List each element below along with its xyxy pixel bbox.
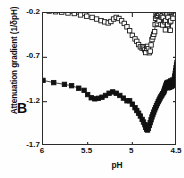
data-point bbox=[85, 14, 89, 18]
data-point bbox=[149, 43, 153, 47]
data-point bbox=[90, 15, 94, 19]
series-open-squares bbox=[43, 13, 176, 55]
data-point bbox=[127, 29, 131, 33]
x-tick-label: 5.5 bbox=[81, 146, 92, 155]
chart-svg bbox=[43, 13, 176, 145]
x-axis-title: pH bbox=[0, 160, 184, 170]
data-point bbox=[78, 13, 82, 17]
data-point bbox=[148, 49, 152, 53]
y-tick-label: -0.7 bbox=[14, 52, 40, 60]
data-point bbox=[60, 13, 64, 14]
data-point bbox=[77, 86, 81, 90]
data-point bbox=[43, 78, 45, 82]
chart-figure: Attenuation gradient (1/δpH) -0.2-0.7-1.… bbox=[0, 0, 184, 178]
series-filled-squares bbox=[43, 60, 176, 132]
data-point bbox=[52, 80, 56, 84]
panel-label: B bbox=[17, 100, 27, 116]
x-axis-tick-labels: 65.554.5 bbox=[0, 146, 184, 160]
data-point bbox=[66, 13, 70, 15]
data-point bbox=[82, 88, 86, 92]
data-point bbox=[62, 82, 66, 86]
y-tick-label: -0.2 bbox=[14, 8, 40, 16]
x-tick-label: 5 bbox=[129, 146, 133, 155]
x-axis-title-text: pH bbox=[111, 160, 122, 170]
data-point bbox=[53, 13, 57, 14]
data-point bbox=[152, 29, 156, 33]
data-point bbox=[163, 28, 167, 32]
data-point bbox=[72, 13, 76, 16]
data-point bbox=[69, 84, 73, 88]
data-point bbox=[171, 16, 175, 20]
data-point bbox=[168, 28, 172, 32]
data-point bbox=[175, 60, 176, 64]
plot-area bbox=[42, 12, 176, 145]
data-point bbox=[94, 17, 98, 21]
x-tick-label: 6 bbox=[40, 146, 44, 155]
x-tick-label: 4.5 bbox=[170, 146, 181, 155]
